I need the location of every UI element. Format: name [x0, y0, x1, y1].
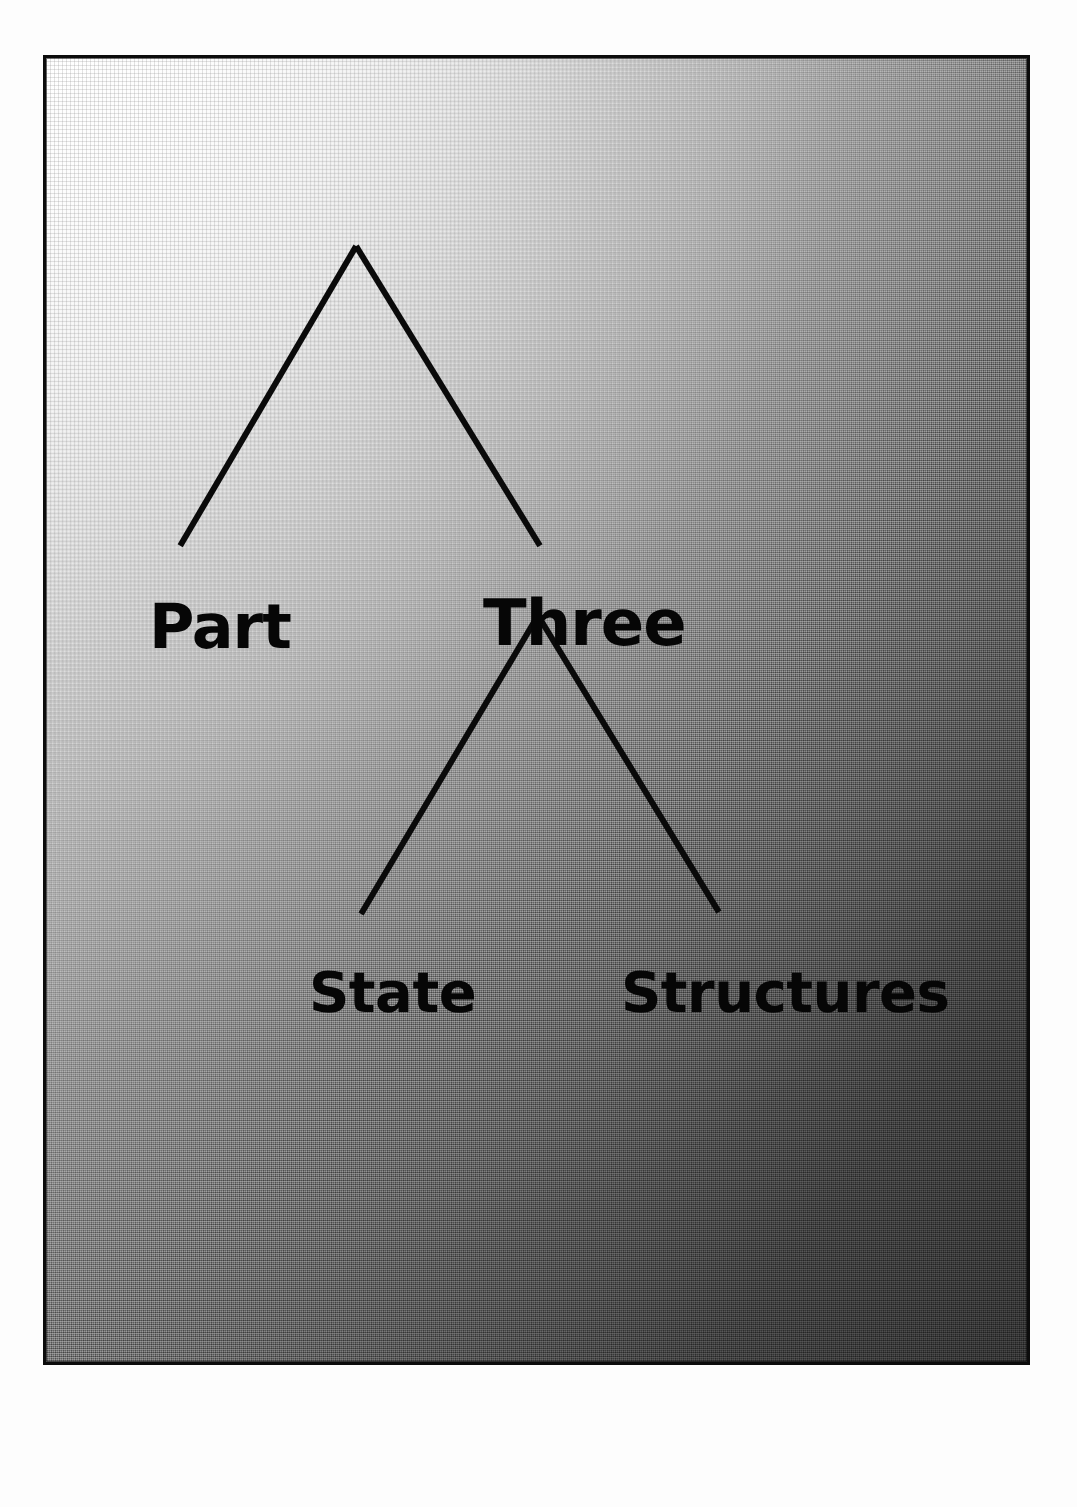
part-title-panel: Part Three State Structures	[43, 55, 1030, 1365]
page-canvas: Part Three State Structures	[0, 0, 1077, 1507]
tree-node-label-part: Part	[149, 596, 291, 658]
tree-node-label-three: Three	[483, 592, 686, 656]
tree-node-label-structures: Structures	[621, 966, 949, 1022]
tree-node-label-state: State	[309, 966, 476, 1022]
panel-gradient-background	[46, 58, 1027, 1362]
